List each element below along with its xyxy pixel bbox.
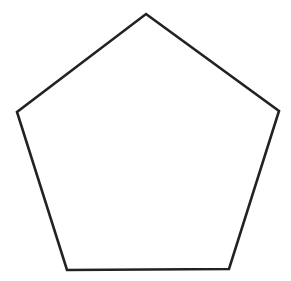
pentagon-figure [0,0,291,281]
diagram-canvas [0,0,291,281]
pentagon-shape [17,14,279,270]
